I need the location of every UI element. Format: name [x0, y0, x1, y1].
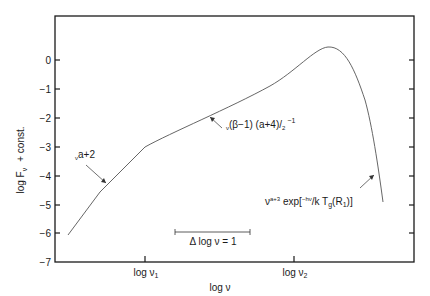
ytick-minus3: −3 — [40, 142, 52, 153]
ytick-minus7: −7 — [40, 257, 52, 268]
x-ticks — [145, 256, 294, 262]
scale-bar-label: Δ log ν = 1 — [190, 236, 237, 247]
plot-frame — [55, 16, 414, 262]
ytick-minus1: −1 — [40, 84, 52, 95]
sed-chart: 0 −1 −2 −3 −4 −5 −6 −7 log Fν+ const. lo… — [0, 0, 430, 296]
annotation-mid-power-law: ν(β−1) (a+4)/2 −1 — [226, 117, 295, 131]
y-axis-label: log Fν+ const. — [15, 126, 28, 193]
ytick-minus2: −2 — [40, 113, 52, 124]
x-axis-label: log ν — [209, 282, 230, 293]
scale-bar — [175, 229, 250, 235]
y-ticks-left — [55, 60, 60, 233]
y-tick-labels: 0 −1 −2 −3 −4 −5 −6 −7 — [40, 55, 52, 268]
y-ticks-right — [409, 60, 414, 233]
ytick-minus6: −6 — [40, 228, 52, 239]
ytick-minus5: −5 — [40, 200, 52, 211]
ytick-minus4: −4 — [40, 171, 52, 182]
annotation-exponential-cutoff: νa+3 exp[−hν/k Tg(R1)] — [265, 196, 353, 209]
xtick-log-nu2: log ν2 — [282, 267, 307, 279]
svg-text:log Fν+ const.: log Fν+ const. — [15, 126, 28, 193]
ytick-0: 0 — [45, 55, 51, 66]
annotation-low-power-law: νa+2 — [75, 149, 95, 161]
xtick-log-nu1: log ν1 — [133, 267, 158, 279]
